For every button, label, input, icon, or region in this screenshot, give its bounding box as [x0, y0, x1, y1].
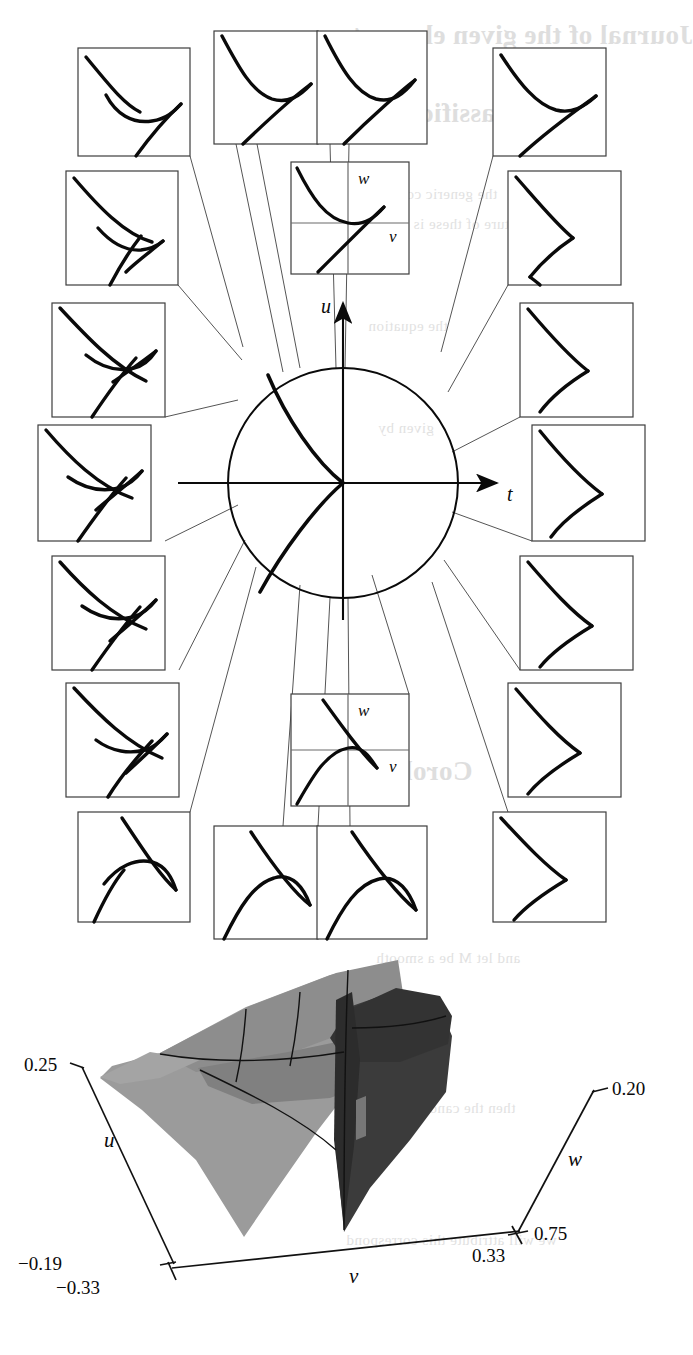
inset-box	[520, 556, 633, 670]
surface-sliver-dark	[356, 1096, 366, 1140]
inset-box	[78, 48, 190, 156]
inset-box	[520, 303, 633, 417]
labeled-inset-top: w v	[291, 162, 409, 274]
inset-box	[508, 683, 621, 797]
tick-label-u-top: 0.25	[24, 1054, 57, 1075]
tick-label-w-top: 0.20	[612, 1078, 645, 1099]
inset-box	[317, 31, 427, 144]
bifurcation-axes	[178, 303, 497, 620]
inset-box	[66, 171, 178, 285]
axis3d-label-w: w	[568, 1147, 582, 1171]
tick-label-v-right: 0.33	[472, 1245, 505, 1266]
inset-box	[532, 425, 645, 541]
axis3d-label-u: u	[104, 1128, 115, 1152]
inset-axis-label-w: w	[358, 169, 370, 188]
inset-box	[508, 171, 621, 285]
inset-axis-label-v: v	[389, 757, 397, 776]
axis-label-u: u	[321, 295, 331, 317]
inset-box	[317, 826, 427, 939]
swallowtail-surface-3d: 0.25 −0.19 −0.33 0.33 0.75 0.20 u v w	[18, 960, 645, 1298]
inset-box	[214, 31, 318, 144]
tick-label-u-bottom: −0.19	[18, 1253, 62, 1274]
inset-box	[214, 826, 318, 939]
inset-box	[493, 812, 606, 922]
inset-box	[52, 556, 165, 670]
inset-box	[38, 425, 151, 541]
labeled-inset-bottom: w v	[291, 694, 409, 806]
inset-box	[78, 812, 190, 922]
inset-box	[52, 303, 165, 417]
tick-label-w-bottom: 0.75	[534, 1223, 567, 1244]
inset-axis-label-w: w	[358, 701, 370, 720]
axis-label-t: t	[507, 483, 513, 505]
inset-axis-label-v: v	[389, 227, 397, 246]
inset-box	[66, 683, 179, 797]
tick-label-v-left: −0.33	[56, 1277, 100, 1298]
inset-box	[493, 48, 606, 156]
axis3d-label-v: v	[349, 1264, 359, 1288]
